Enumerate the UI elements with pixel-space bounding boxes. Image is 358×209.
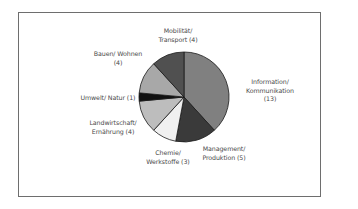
- label-mobilitaet-line1: Mobilität/: [150, 27, 206, 36]
- label-mobilitaet-line2: Transport (4): [150, 36, 206, 45]
- label-bauen-line1: Bauen/ Wohnen: [90, 50, 146, 59]
- label-information-line2: Kommunikation: [242, 87, 298, 96]
- label-management-line2: Produktion (5): [197, 154, 251, 163]
- label-management-line1: Management/: [197, 145, 251, 154]
- label-information: Information/ Kommunikation (13): [242, 78, 298, 104]
- label-chemie: Chemie/ Werkstoffe (3): [143, 149, 193, 166]
- label-management: Management/ Produktion (5): [197, 145, 251, 162]
- label-chemie-line2: Werkstoffe (3): [143, 158, 193, 167]
- label-information-line3: (13): [242, 95, 298, 104]
- label-landwirtschaft-line2: Ernährung (4): [85, 128, 141, 137]
- label-information-line1: Information/: [242, 78, 298, 87]
- label-umwelt: Umwelt/ Natur (1): [80, 94, 136, 103]
- label-umwelt-line1: Umwelt/ Natur (1): [80, 94, 136, 103]
- label-landwirtschaft: Landwirtschaft/ Ernährung (4): [85, 119, 141, 136]
- label-chemie-line1: Chemie/: [143, 149, 193, 158]
- label-landwirtschaft-line1: Landwirtschaft/: [85, 119, 141, 128]
- label-bauen: Bauen/ Wohnen (4): [90, 50, 146, 67]
- label-mobilitaet: Mobilität/ Transport (4): [150, 27, 206, 44]
- label-bauen-line2: (4): [90, 59, 146, 68]
